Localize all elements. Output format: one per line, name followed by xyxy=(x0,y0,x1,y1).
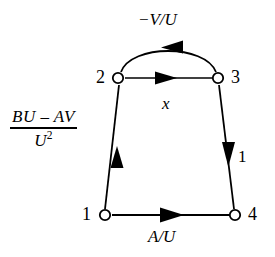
node-label-3: 3 xyxy=(231,68,240,86)
edge-1-to-2 xyxy=(105,85,124,209)
node-marker-4[interactable] xyxy=(230,210,240,220)
fraction-denominator: U2 xyxy=(10,129,77,149)
node-label-2: 2 xyxy=(96,68,105,86)
node-marker-3[interactable] xyxy=(213,73,223,83)
fraction-denominator-exponent: 2 xyxy=(47,129,53,142)
node-marker-1[interactable] xyxy=(100,210,110,220)
left-edge-gain-fraction: BU – AV U2 xyxy=(10,108,77,149)
fraction-numerator: BU – AV xyxy=(10,108,77,127)
right-edge-gain-label: 1 xyxy=(238,148,247,165)
node-label-1: 1 xyxy=(82,205,91,223)
node-marker-2[interactable] xyxy=(113,73,123,83)
top-edge-gain-label: x xyxy=(162,95,170,112)
node-label-4: 4 xyxy=(248,205,257,223)
edge-3-to-4 xyxy=(219,85,235,209)
edge-1-to-4 xyxy=(112,208,229,223)
arrowhead-right-bottom xyxy=(160,208,184,223)
fraction-denominator-base: U xyxy=(34,131,46,150)
arrowhead-down xyxy=(222,142,235,167)
edge-2-to-3 xyxy=(125,72,212,85)
arrowhead-right-top xyxy=(155,72,177,85)
signal-flow-graph-figure: 1 2 3 4 −V/U x A/U 1 BU – AV U2 xyxy=(0,0,275,257)
bottom-edge-gain-label: A/U xyxy=(148,228,175,245)
edge-3-to-2-arc xyxy=(121,41,216,73)
arc-gain-label: −V/U xyxy=(138,11,177,28)
